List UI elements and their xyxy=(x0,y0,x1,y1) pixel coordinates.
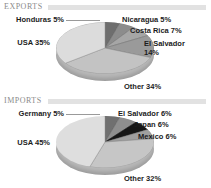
label-honduras: Honduras 5% xyxy=(8,15,64,24)
label-el-salvador-name: El Salvador xyxy=(144,39,185,48)
imports-title: IMPORTS xyxy=(4,96,42,106)
label-el-salvador-pct: 14% xyxy=(144,48,159,57)
label-other: Other 34% xyxy=(124,82,161,91)
label-mexico: Mexico 6% xyxy=(138,132,176,141)
label-germany: Germany 5% xyxy=(8,109,64,118)
trade-charts-figure: EXPORTS xyxy=(0,0,211,188)
imports-header-rule xyxy=(48,99,206,104)
label-usa: USA 35% xyxy=(0,38,50,47)
label-nicaragua: Nicaragua 5% xyxy=(122,15,171,24)
honduras-leader-line xyxy=(66,20,100,21)
imports-pie-chart: Germany 5% El Salvador 6% Japan 6% Mexic… xyxy=(0,106,211,188)
exports-pie-chart: Honduras 5% Nicaragua 5% Costa Rica 7% E… xyxy=(0,12,211,94)
germany-leader-line xyxy=(66,114,100,115)
exports-header-rule xyxy=(48,5,206,10)
label-japan: Japan 6% xyxy=(134,120,169,129)
label-costa-rica: Costa Rica 7% xyxy=(130,26,182,35)
label-other: Other 32% xyxy=(124,174,161,183)
label-usa: USA 45% xyxy=(0,138,50,147)
exports-title: EXPORTS xyxy=(4,2,43,12)
label-el-salvador: El Salvador 6% xyxy=(118,109,172,118)
